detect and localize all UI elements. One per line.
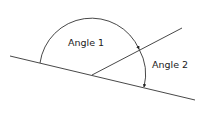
angle-1-label: Angle 1 (68, 37, 104, 48)
angle-2-arc (139, 49, 146, 87)
angle-2-label: Angle 2 (152, 59, 188, 70)
